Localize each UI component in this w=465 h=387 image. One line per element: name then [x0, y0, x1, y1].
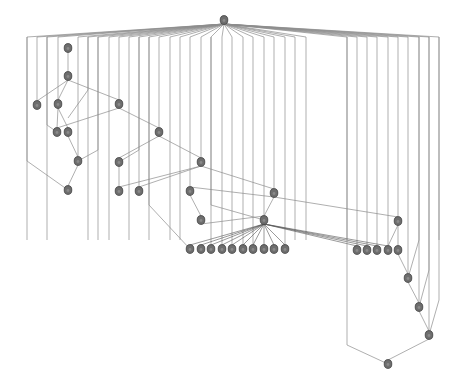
- edge-bypass: [408, 37, 419, 278]
- edge: [264, 224, 274, 245]
- edge-bypass: [47, 37, 57, 132]
- edge: [211, 224, 264, 245]
- edge: [190, 195, 201, 216]
- edge-root-fan: [159, 24, 224, 127]
- edge: [68, 165, 78, 186]
- edge-root-fan: [224, 24, 357, 245]
- graph-node[interactable]: [394, 246, 402, 255]
- edge-bypass: [419, 37, 429, 307]
- graph-node[interactable]: [64, 72, 72, 81]
- graph-node[interactable]: [115, 158, 123, 167]
- edge-root-fan: [119, 24, 224, 99]
- edge: [388, 339, 429, 360]
- edge: [408, 282, 419, 303]
- edge-root-fan: [47, 24, 224, 240]
- edge: [398, 254, 408, 274]
- graph-node[interactable]: [186, 245, 194, 254]
- graph-node[interactable]: [281, 245, 289, 254]
- edge-root-fan: [224, 24, 295, 240]
- edge-root-fan: [201, 24, 224, 157]
- graph-node[interactable]: [197, 216, 205, 225]
- edge: [68, 80, 119, 100]
- graph-node[interactable]: [404, 274, 412, 283]
- graph-node[interactable]: [260, 216, 268, 225]
- edge-root-fan: [180, 24, 224, 240]
- edge-root-fan: [224, 24, 243, 244]
- graph-node[interactable]: [115, 100, 123, 109]
- graph-node[interactable]: [54, 100, 62, 109]
- graph-node[interactable]: [373, 246, 381, 255]
- edge: [274, 197, 398, 217]
- graph-node[interactable]: [135, 187, 143, 196]
- edge-root-fan: [224, 24, 377, 245]
- graph-node[interactable]: [155, 128, 163, 137]
- graph-node[interactable]: [218, 245, 226, 254]
- graph-node[interactable]: [74, 157, 82, 166]
- edge-root-fan: [224, 24, 264, 215]
- edge: [37, 80, 68, 101]
- graph-node[interactable]: [363, 246, 371, 255]
- graph-node[interactable]: [64, 44, 72, 53]
- edge-bypass: [429, 37, 439, 335]
- graph-node[interactable]: [207, 245, 215, 254]
- edge-root-fan: [224, 24, 367, 245]
- graph-node[interactable]: [384, 246, 392, 255]
- graph-node[interactable]: [394, 217, 402, 226]
- edge-root-fan: [224, 24, 274, 188]
- edge-root-fan: [224, 24, 232, 244]
- graph-canvas: [0, 0, 465, 387]
- graph-node[interactable]: [64, 186, 72, 195]
- graph-node[interactable]: [260, 245, 268, 254]
- edges-layer: [27, 24, 439, 364]
- edge: [201, 166, 274, 189]
- graph-node[interactable]: [239, 245, 247, 254]
- graph-node[interactable]: [115, 187, 123, 196]
- edge: [264, 197, 274, 216]
- graph-node[interactable]: [64, 128, 72, 137]
- graph-node[interactable]: [33, 101, 41, 110]
- edge-bypass: [149, 37, 190, 249]
- edge-root-fan: [224, 24, 347, 240]
- graph-node[interactable]: [53, 128, 61, 137]
- graph-node[interactable]: [353, 246, 361, 255]
- edge-root-fan: [109, 24, 224, 240]
- edge-root-fan: [190, 24, 224, 186]
- edge-root-fan: [224, 24, 253, 244]
- graph-node[interactable]: [425, 331, 433, 340]
- graph-node[interactable]: [197, 245, 205, 254]
- graph-node[interactable]: [415, 303, 423, 312]
- edge-root-fan: [78, 24, 224, 156]
- graph-node[interactable]: [197, 158, 205, 167]
- graph-node[interactable]: [186, 187, 194, 196]
- edge-root-fan: [170, 24, 224, 240]
- graph-node[interactable]: [384, 360, 392, 369]
- graph-node[interactable]: [249, 245, 257, 254]
- edge-root-fan: [224, 24, 439, 240]
- graph-node[interactable]: [270, 245, 278, 254]
- edge: [68, 136, 78, 157]
- edge: [419, 311, 429, 331]
- edge-root-fan: [224, 24, 408, 273]
- edge: [388, 225, 398, 246]
- edge-root-fan: [129, 24, 224, 240]
- edge-bypass: [27, 37, 68, 190]
- edge-root-fan: [224, 24, 306, 240]
- graph-node[interactable]: [228, 245, 236, 254]
- edge-root-fan: [222, 24, 224, 244]
- graph-node[interactable]: [270, 189, 278, 198]
- root-node[interactable]: [220, 16, 228, 25]
- edge-bypass: [347, 37, 388, 364]
- edge: [264, 224, 357, 246]
- edge-root-fan: [224, 24, 398, 216]
- edge: [57, 108, 58, 128]
- edge: [119, 166, 201, 187]
